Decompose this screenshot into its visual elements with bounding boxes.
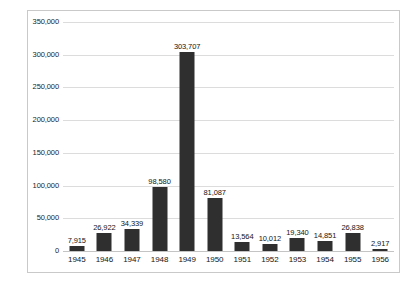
bar[interactable] — [180, 52, 195, 251]
x-axis-tick-label: 1951 — [229, 254, 257, 265]
x-axis-labels: 1945194619471948194919501951195219531954… — [63, 254, 394, 270]
bar-slot: 26,838 — [339, 22, 367, 251]
bar-value-label: 26,922 — [93, 223, 115, 232]
bar[interactable] — [69, 246, 84, 251]
bar-value-label: 7,915 — [68, 236, 86, 245]
bar[interactable] — [262, 244, 277, 251]
y-axis-tick-label: 100,000 — [1, 182, 59, 190]
gridline — [63, 251, 394, 252]
bar-value-label: 81,087 — [204, 188, 226, 197]
y-axis-tick-label: 0 — [1, 247, 59, 255]
bar-slot: 26,922 — [91, 22, 119, 251]
x-axis-tick-label: 1946 — [91, 254, 119, 265]
bar-value-label: 10,012 — [259, 234, 281, 243]
x-axis-tick-label: 1948 — [146, 254, 174, 265]
bar-slot: 98,580 — [146, 22, 174, 251]
bar-slot: 10,012 — [256, 22, 284, 251]
bar-slot: 303,707 — [173, 22, 201, 251]
bar[interactable] — [97, 233, 112, 251]
x-axis-tick-label: 1950 — [201, 254, 229, 265]
x-axis-tick-label: 1952 — [256, 254, 284, 265]
x-axis-tick-label: 1945 — [63, 254, 91, 265]
bar-value-label: 2,917 — [371, 239, 389, 248]
x-axis-tick-label: 1949 — [173, 254, 201, 265]
y-axis-tick-label: 300,000 — [1, 51, 59, 59]
bar-value-label: 303,707 — [174, 42, 200, 51]
y-axis-tick-label: 250,000 — [1, 83, 59, 91]
x-axis-tick-label: 1955 — [339, 254, 367, 265]
bar-value-label: 13,564 — [231, 232, 253, 241]
y-axis-tick-label: 150,000 — [1, 149, 59, 157]
bar-value-label: 26,838 — [341, 223, 363, 232]
bar-chart: 050,000100,000150,000200,000250,000300,0… — [0, 0, 408, 285]
bar-slot: 14,851 — [311, 22, 339, 251]
bar[interactable] — [373, 249, 388, 251]
bar-value-label: 19,340 — [286, 228, 308, 237]
bar-slot: 34,339 — [118, 22, 146, 251]
bar-slot: 13,564 — [229, 22, 257, 251]
bar-value-label: 14,851 — [314, 231, 336, 240]
bar[interactable] — [345, 233, 360, 251]
bar[interactable] — [290, 238, 305, 251]
bar-slot: 7,915 — [63, 22, 91, 251]
bar[interactable] — [318, 241, 333, 251]
bar-slot: 81,087 — [201, 22, 229, 251]
bar-slot: 2,917 — [366, 22, 394, 251]
x-axis-tick-label: 1956 — [366, 254, 394, 265]
bar-value-label: 98,580 — [148, 177, 170, 186]
x-axis-tick-label: 1953 — [284, 254, 312, 265]
bar[interactable] — [207, 198, 222, 251]
x-axis-tick-label: 1947 — [118, 254, 146, 265]
bars-layer: 7,91526,92234,33998,580303,70781,08713,5… — [63, 22, 394, 251]
bar-slot: 19,340 — [284, 22, 312, 251]
bar[interactable] — [124, 229, 139, 251]
y-axis-tick-label: 200,000 — [1, 116, 59, 124]
x-axis-tick-label: 1954 — [311, 254, 339, 265]
bar[interactable] — [235, 242, 250, 251]
y-axis-tick-label: 350,000 — [1, 18, 59, 26]
bar-value-label: 34,339 — [121, 219, 143, 228]
y-axis-tick-label: 50,000 — [1, 214, 59, 222]
bar[interactable] — [152, 187, 167, 251]
